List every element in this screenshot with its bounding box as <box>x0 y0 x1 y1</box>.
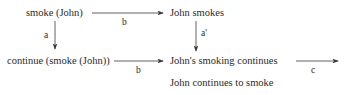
node-smoke-john: smoke (John) <box>26 7 83 19</box>
node-john-continues-to-smoke: John continues to smoke <box>170 77 274 89</box>
node-continue-smoke-john: continue (smoke (John)) <box>7 55 110 67</box>
label-left-a: a <box>44 30 48 40</box>
label-bottom-b: b <box>136 65 141 75</box>
label-right-c: c <box>311 65 315 75</box>
label-right-a-prime: a' <box>201 28 207 38</box>
node-john-smokes: John smokes <box>170 7 224 19</box>
node-johns-smoking-continues: John's smoking continues <box>170 55 277 67</box>
label-top-b: b <box>122 17 127 27</box>
